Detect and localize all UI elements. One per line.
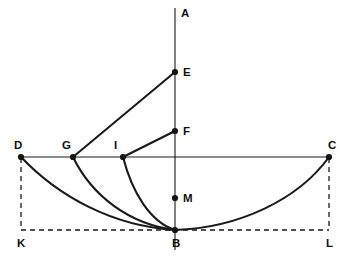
point-label-C: C	[328, 139, 337, 151]
point-label-L: L	[326, 237, 333, 249]
geometry-diagram: A E F D G I C M B K L	[0, 0, 344, 264]
point-dot-C	[326, 154, 332, 160]
point-label-D: D	[14, 139, 23, 151]
point-label-B: B	[172, 237, 181, 249]
curve-from-B-to-C	[175, 157, 329, 230]
chord-line-G-E	[73, 72, 175, 157]
point-label-I: I	[114, 139, 117, 151]
point-label-G: G	[62, 139, 71, 151]
point-dot-I	[120, 154, 126, 160]
point-label-A: A	[181, 7, 190, 19]
point-label-M: M	[183, 192, 193, 204]
point-dot-G	[70, 154, 76, 160]
point-dot-F	[172, 128, 178, 134]
point-label-K: K	[17, 237, 26, 249]
point-dot-B	[172, 227, 178, 233]
point-dot-M	[172, 195, 178, 201]
point-label-F: F	[183, 125, 190, 137]
point-dot-D	[18, 154, 24, 160]
curve-from-G-to-B	[73, 157, 175, 230]
geometry-figure-svg: A E F D G I C M B K L	[0, 0, 344, 264]
point-label-E: E	[183, 66, 191, 78]
chords-group	[73, 72, 175, 157]
chord-line-I-F	[123, 131, 175, 157]
point-dot-E	[172, 69, 178, 75]
curve-from-I-to-B	[123, 157, 175, 230]
